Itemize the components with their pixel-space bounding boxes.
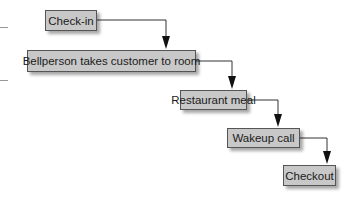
step-label: Restaurant meal: [171, 94, 255, 106]
step-wakeup-call: Wakeup call: [227, 128, 300, 148]
arrowhead-icon: [274, 114, 282, 127]
arrowhead-icon: [323, 151, 331, 164]
step-label: Bellperson takes customer to room: [23, 55, 201, 67]
arrowhead-icon: [162, 36, 170, 49]
step-label: Wakeup call: [232, 132, 294, 144]
step-bellperson: Bellperson takes customer to room: [27, 50, 196, 72]
step-label: Check-in: [48, 15, 93, 27]
step-check-in: Check-in: [45, 10, 97, 31]
connector-bellperson-to-restaurant: [196, 61, 236, 89]
step-label: Checkout: [285, 170, 334, 182]
connector-wakeup-to-checkout: [300, 138, 331, 164]
step-checkout: Checkout: [283, 165, 336, 186]
arrowhead-icon: [228, 76, 236, 89]
connector-checkin-to-bellperson: [97, 20, 170, 49]
step-restaurant-meal: Restaurant meal: [180, 90, 247, 110]
